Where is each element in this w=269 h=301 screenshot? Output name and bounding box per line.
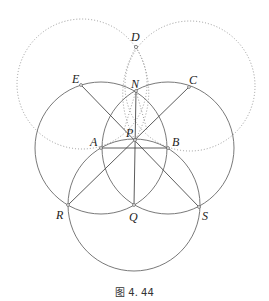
label-c: C	[189, 73, 198, 87]
label-p: P	[125, 126, 134, 140]
label-q: Q	[129, 210, 138, 224]
label-n: N	[130, 77, 140, 91]
label-b: B	[172, 135, 180, 149]
label-d: D	[130, 30, 140, 44]
point-s	[198, 206, 201, 209]
point-d	[134, 45, 137, 48]
point-b	[167, 147, 170, 150]
point-p	[134, 139, 137, 142]
point-q	[133, 204, 136, 207]
point-e	[80, 84, 83, 87]
label-r: R	[55, 208, 64, 222]
figure-caption: 图 4. 44	[0, 284, 269, 299]
segment-es	[81, 85, 199, 207]
label-a: A	[89, 135, 98, 149]
label-s: S	[202, 209, 208, 223]
point-r	[67, 204, 70, 207]
geometry-figure: D E N C P A B R Q S	[0, 0, 269, 301]
segment-cr	[68, 87, 189, 205]
label-e: E	[71, 72, 80, 86]
point-a	[100, 147, 103, 150]
